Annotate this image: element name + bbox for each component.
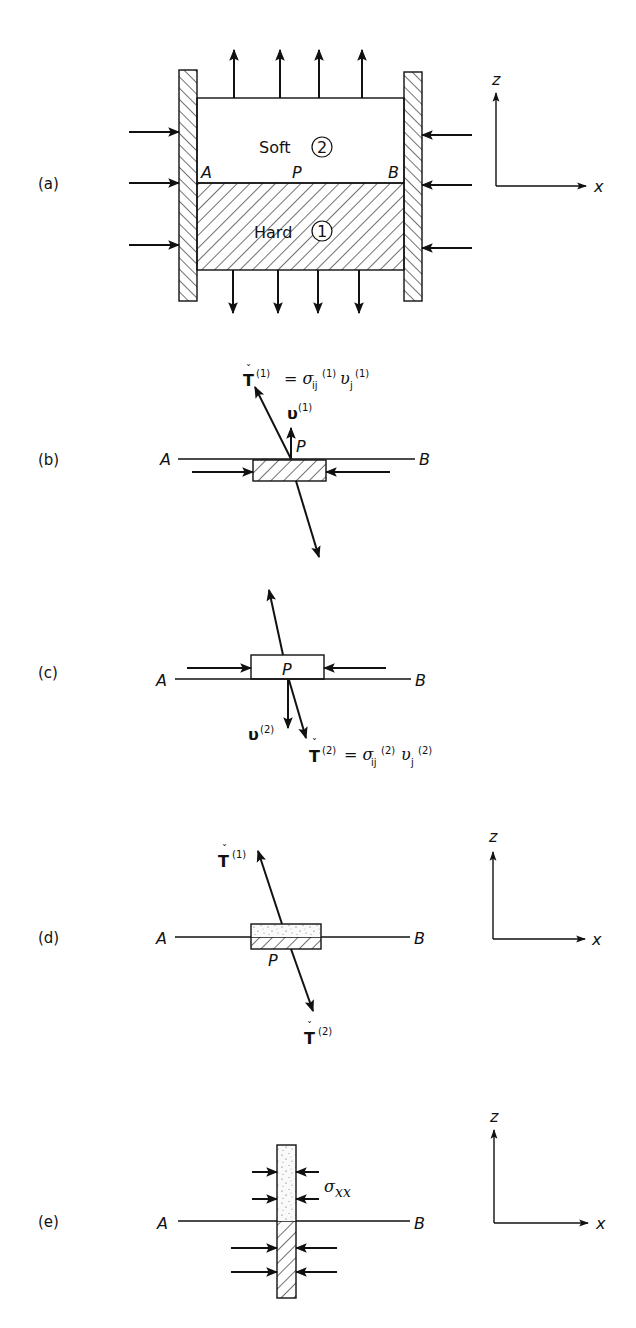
hard-element xyxy=(251,937,321,949)
traction-lower-arrow xyxy=(296,481,319,557)
svg-text:υ: υ xyxy=(401,745,411,764)
svg-text:(2): (2) xyxy=(322,745,336,756)
point-p: P xyxy=(292,163,302,182)
z-axis-label: z xyxy=(491,70,501,89)
traction-2-arrow xyxy=(291,949,313,1011)
figure-canvas: (a) Soft 2 Hard 1 A P B xyxy=(0,0,636,1328)
panel-e: (e) A B σ xx z x xyxy=(38,1107,606,1298)
svg-text:T: T xyxy=(243,371,254,390)
svg-text:υ: υ xyxy=(340,369,350,388)
compression-arrows-right xyxy=(422,135,472,248)
x-axis-label: x xyxy=(591,930,602,949)
point-a: A xyxy=(155,671,167,690)
point-b: B xyxy=(414,1214,425,1233)
hard-label: Hard xyxy=(254,223,292,242)
soft-element xyxy=(251,924,321,937)
normal-2-label: υ xyxy=(248,725,259,744)
z-axis-label: z xyxy=(489,1107,499,1126)
svg-text:j: j xyxy=(349,380,353,391)
normal-1-label: υ xyxy=(287,404,298,423)
svg-text:T: T xyxy=(309,747,320,766)
svg-text:(1): (1) xyxy=(355,368,369,379)
point-b: B xyxy=(388,163,399,182)
point-b: B xyxy=(415,671,426,690)
hard-layer xyxy=(197,183,404,270)
point-a: A xyxy=(156,1214,168,1233)
material-1-number: 1 xyxy=(317,222,327,241)
panel-label-e: (e) xyxy=(38,1213,59,1231)
panel-d: (d) A B P ˇ T (1) ˇ T (2) z x xyxy=(38,827,602,1048)
tension-arrows-up xyxy=(234,50,362,98)
svg-text:(2): (2) xyxy=(418,745,432,756)
svg-text:ij: ij xyxy=(312,380,318,391)
svg-text:(2): (2) xyxy=(318,1026,332,1037)
traction-1-label: T xyxy=(218,852,229,871)
traction-2-label: T xyxy=(304,1029,315,1048)
point-a: A xyxy=(200,163,212,182)
soft-column xyxy=(277,1145,296,1221)
axes-d: z x xyxy=(488,827,602,949)
svg-text:ij: ij xyxy=(371,757,377,768)
svg-text:(2): (2) xyxy=(381,745,395,756)
traction-equation-1: ˇ T (1) = σ ij (1) υ j (1) xyxy=(243,364,369,391)
traction-upper-arrow xyxy=(269,590,283,655)
panel-label-b: (b) xyxy=(38,451,59,469)
point-p: P xyxy=(296,437,306,456)
point-p: P xyxy=(282,660,292,679)
svg-text:(1): (1) xyxy=(256,368,270,379)
point-b: B xyxy=(419,450,430,469)
point-a: A xyxy=(159,450,171,469)
x-axis-label: x xyxy=(595,1214,606,1233)
point-b: B xyxy=(414,929,425,948)
panel-label-d: (d) xyxy=(38,929,59,947)
svg-text:(2): (2) xyxy=(260,724,274,735)
point-a: A xyxy=(155,929,167,948)
point-p: P xyxy=(268,951,278,970)
axes-a: z x xyxy=(491,70,604,196)
svg-text:(1): (1) xyxy=(232,849,246,860)
stress-subscript: xx xyxy=(335,1184,351,1200)
traction-1-arrow xyxy=(258,851,282,924)
svg-text:(1): (1) xyxy=(298,402,312,413)
panel-label-c: (c) xyxy=(38,664,58,682)
panel-c: (c) A B P υ (2) ˇ T (2) = σ ij (2) υ j (… xyxy=(38,590,432,768)
svg-text:j: j xyxy=(410,757,414,768)
z-axis-label: z xyxy=(488,827,498,846)
right-wall xyxy=(404,72,422,301)
x-axis-label: x xyxy=(593,177,604,196)
hard-column xyxy=(277,1221,296,1298)
panel-b: (b) A B P υ (1) ˇ T (1) = σ ij (1) υ j (… xyxy=(38,364,430,557)
panel-label-a: (a) xyxy=(38,175,59,193)
material-2-number: 2 xyxy=(317,138,327,157)
svg-text:= σ: = σ xyxy=(344,745,374,764)
traction-1-arrow xyxy=(255,387,291,459)
axes-e: z x xyxy=(489,1107,606,1233)
compression-arrows-left xyxy=(129,132,179,245)
svg-text:(1): (1) xyxy=(322,368,336,379)
left-wall xyxy=(179,70,197,301)
traction-2-arrow xyxy=(289,680,306,738)
svg-text:= σ: = σ xyxy=(284,369,314,388)
hard-element xyxy=(253,460,326,481)
panel-a: (a) Soft 2 Hard 1 A P B xyxy=(38,50,604,313)
soft-label: Soft xyxy=(259,138,291,157)
traction-equation-2: ˇ T (2) = σ ij (2) υ j (2) xyxy=(309,738,432,768)
tension-arrows-down xyxy=(233,270,359,313)
